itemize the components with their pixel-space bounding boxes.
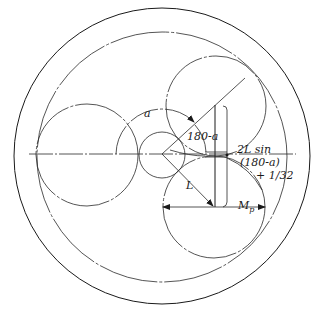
planetary-gear-diagram: a 180-a L 2L sin (180-a) + 1/32 Mp: [0, 0, 323, 313]
label-length-L: L: [185, 179, 193, 192]
label-angle-180-a: 180-a: [187, 130, 218, 143]
label-formula-line2: (180-a): [240, 156, 280, 169]
angle-a-arc: [116, 109, 194, 154]
label-angle-a: a: [144, 107, 151, 120]
label-mp: Mp: [237, 199, 254, 214]
planet-gear-left: [36, 104, 138, 206]
mesh-point-dot: [226, 154, 229, 157]
label-formula-line1: 2L sin: [236, 143, 271, 156]
label-formula-line3: + 1/32: [256, 169, 293, 182]
